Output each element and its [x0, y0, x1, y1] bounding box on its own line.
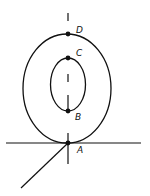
- point-c: [66, 56, 71, 61]
- label-a: A: [76, 145, 83, 155]
- point-d: [66, 32, 71, 37]
- diagram-canvas: D C B A: [0, 0, 150, 196]
- point-a: [66, 141, 71, 146]
- point-b: [66, 109, 71, 114]
- label-c: C: [76, 48, 83, 58]
- outer-loop: [23, 34, 111, 143]
- label-d: D: [76, 25, 83, 35]
- label-b: B: [75, 112, 81, 122]
- diagonal-line: [21, 143, 68, 188]
